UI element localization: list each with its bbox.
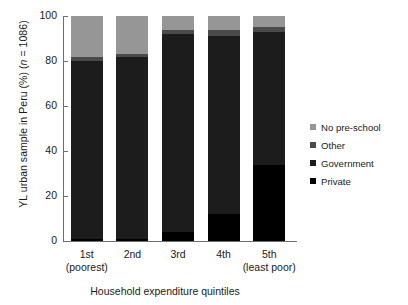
y-axis-tick-label: 20 bbox=[45, 189, 57, 201]
plot-area: 020406080100 bbox=[64, 16, 292, 241]
bar-segment-no-pre-school bbox=[162, 16, 194, 30]
y-axis-tick-mark bbox=[64, 241, 68, 242]
legend-swatch bbox=[310, 124, 316, 130]
bar-5th bbox=[253, 16, 285, 241]
bar-group bbox=[64, 16, 292, 241]
legend: No pre-schoolOtherGovernmentPrivate bbox=[310, 118, 381, 190]
legend-item-private: Private bbox=[310, 172, 381, 190]
bar-segment-government bbox=[71, 61, 103, 239]
bar-segment-private bbox=[253, 165, 285, 242]
legend-swatch bbox=[310, 178, 316, 184]
y-axis-title-pre: YL urban sample in Peru (%) ( bbox=[17, 65, 29, 207]
bar-segment-no-pre-school bbox=[116, 16, 148, 54]
bar-segment-private bbox=[208, 214, 240, 241]
legend-item-government: Government bbox=[310, 154, 381, 172]
x-axis-label-5th: 5th(least poor) bbox=[227, 248, 311, 274]
bar-segment-no-pre-school bbox=[71, 16, 103, 57]
bar-4th bbox=[208, 16, 240, 241]
x-axis-title: Household expenditure quintiles bbox=[0, 285, 330, 297]
y-axis-title-post: = 1086) bbox=[17, 20, 29, 59]
bar-1st bbox=[71, 16, 103, 241]
bar-segment-private bbox=[116, 239, 148, 241]
bar-2nd bbox=[116, 16, 148, 241]
x-axis-label-line2: (least poor) bbox=[227, 261, 311, 274]
legend-item-other: Other bbox=[310, 136, 381, 154]
x-axis-line bbox=[63, 241, 297, 242]
y-axis-title: YL urban sample in Peru (%) (n = 1086) bbox=[13, 0, 33, 229]
legend-label: Private bbox=[321, 176, 351, 187]
legend-swatch bbox=[310, 160, 316, 166]
y-axis-tick-label: 0 bbox=[51, 234, 57, 246]
bar-segment-other bbox=[208, 30, 240, 37]
bar-3rd bbox=[162, 16, 194, 241]
bar-segment-private bbox=[71, 239, 103, 241]
y-axis-title-n: n bbox=[17, 60, 29, 66]
legend-label: No pre-school bbox=[321, 122, 381, 133]
legend-label: Government bbox=[321, 158, 374, 169]
bar-segment-no-pre-school bbox=[253, 16, 285, 27]
y-axis-tick-label: 40 bbox=[45, 144, 57, 156]
bar-segment-government bbox=[208, 36, 240, 214]
x-axis-label-line1: 5th bbox=[262, 248, 277, 260]
bar-segment-no-pre-school bbox=[208, 16, 240, 30]
bar-segment-private bbox=[162, 232, 194, 241]
bar-segment-government bbox=[162, 34, 194, 232]
legend-swatch bbox=[310, 142, 316, 148]
legend-label: Other bbox=[321, 140, 345, 151]
legend-item-no-pre-school: No pre-school bbox=[310, 118, 381, 136]
y-axis-tick-label: 80 bbox=[45, 54, 57, 66]
y-axis-tick-label: 60 bbox=[45, 99, 57, 111]
figure: YL urban sample in Peru (%) (n = 1086) 0… bbox=[0, 0, 408, 305]
y-axis-tick-label: 100 bbox=[39, 9, 57, 21]
bar-segment-government bbox=[116, 57, 148, 239]
bar-segment-government bbox=[253, 32, 285, 165]
x-axis-label-line2: (poorest) bbox=[45, 261, 129, 274]
